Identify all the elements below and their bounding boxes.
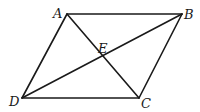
label-b: B (183, 7, 194, 22)
label-d: D (8, 94, 20, 109)
segment-bc (139, 14, 182, 98)
label-e: E (97, 41, 108, 56)
parallelogram-diagram: A B C D E (0, 0, 200, 112)
diagonal-bd (22, 14, 182, 98)
label-a: A (52, 6, 62, 21)
label-c: C (141, 96, 151, 111)
